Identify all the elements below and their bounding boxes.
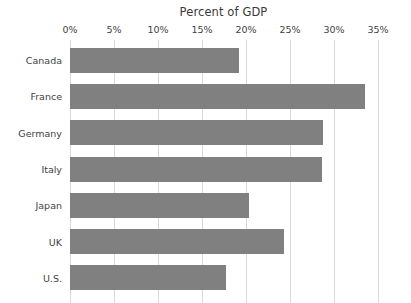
bar-chart: Percent of GDP 0%5%10%15%20%25%30%35% Ca…	[0, 0, 411, 303]
bars-group	[0, 0, 411, 303]
bar-canada[interactable]	[70, 48, 239, 73]
bar-italy[interactable]	[70, 157, 322, 182]
bar-uk[interactable]	[70, 229, 284, 254]
bar-germany[interactable]	[70, 120, 323, 145]
bar-us[interactable]	[70, 265, 226, 290]
bar-japan[interactable]	[70, 193, 249, 218]
bar-france[interactable]	[70, 84, 365, 109]
